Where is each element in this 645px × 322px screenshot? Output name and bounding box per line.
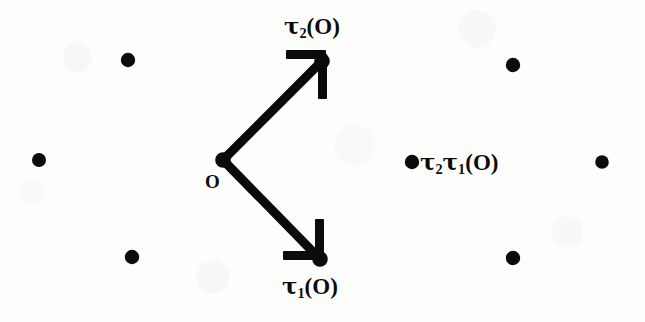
tau2-of-o-point	[314, 53, 330, 69]
lattice-point-bottom-left	[125, 250, 139, 264]
tau2-tau1-argument: (O)	[465, 150, 498, 175]
origin-point	[215, 152, 231, 168]
tau-symbol-outer: τ	[420, 148, 435, 175]
tau2-argument: (O)	[307, 14, 340, 39]
lattice-translation-figure: τ2(O) τ1(O) τ2τ1(O) O	[0, 0, 645, 322]
tau2-of-o-label: τ2(O)	[284, 14, 340, 40]
tau2-tau1-of-o-point	[405, 155, 419, 169]
tau1-argument: (O)	[305, 274, 338, 299]
lattice-point-top-right	[506, 58, 520, 72]
vector-group	[223, 65, 318, 255]
tau1-of-o-label: τ1(O)	[282, 274, 338, 300]
tau1-of-o-point	[312, 251, 328, 267]
tau-symbol-inner: τ	[443, 148, 458, 175]
lattice-point-left	[32, 153, 46, 167]
lattice-point-right	[595, 155, 609, 169]
origin-label: O	[205, 172, 220, 191]
lattice-point-bottom-right	[506, 251, 520, 265]
tau2-vector-shaft	[223, 65, 318, 160]
tau2-tau1-of-o-label: τ2τ1(O)	[420, 150, 498, 176]
tau1-subscript: 1	[297, 285, 304, 301]
tau2-subscript: 2	[435, 161, 442, 177]
lattice-point-top-left	[121, 53, 135, 67]
tau2-subscript: 2	[299, 25, 306, 41]
tau-symbol: τ	[284, 12, 299, 39]
tau1-vector-shaft	[223, 160, 316, 255]
tau-symbol: τ	[282, 272, 297, 299]
